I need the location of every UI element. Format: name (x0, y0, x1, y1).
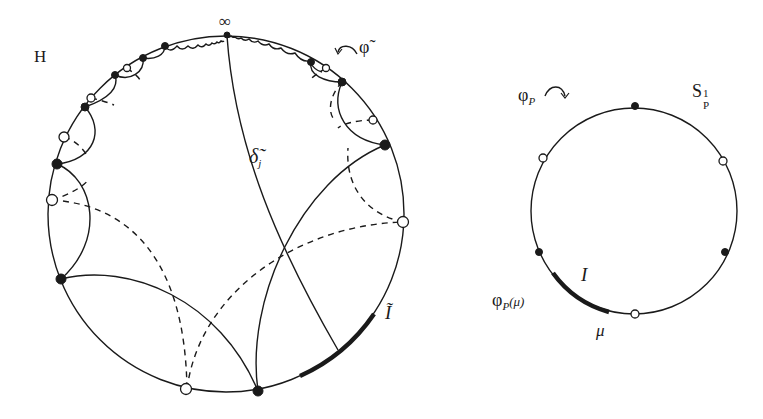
open-vertex (539, 154, 547, 162)
open-vertex (323, 65, 330, 72)
label-delta-j: δ̃j (249, 146, 261, 169)
phi-symbol: φ (518, 85, 528, 105)
filled-vertex (52, 159, 62, 169)
S-subscript: P (703, 100, 709, 111)
filled-vertex (536, 249, 543, 256)
filled-vertex (56, 274, 66, 284)
filled-vertex (140, 55, 147, 62)
filled-vertex (380, 140, 390, 150)
filled-vertex-infinity (224, 32, 230, 38)
S-superscript: 1 (703, 88, 709, 99)
scallops-left (165, 41, 224, 50)
filled-vertex (308, 59, 315, 66)
phi-symbol: φ (492, 290, 502, 310)
dashed-geodesic (52, 200, 187, 389)
phi-argument: (μ) (509, 294, 524, 309)
geodesic (61, 275, 258, 391)
label-phiP: φP (518, 86, 535, 107)
diagram-canvas (0, 0, 763, 419)
dashed-geodesic (52, 180, 88, 200)
geodesic (57, 164, 90, 279)
label-phi-tilde: φ̃ (359, 38, 369, 56)
open-vertex (181, 384, 192, 395)
label-phiP-mu: φP(μ) (492, 291, 524, 312)
label-I: I (581, 265, 587, 284)
label-H: H (34, 48, 46, 65)
label-I-tilde: Ĩ (385, 303, 391, 322)
geodesic (338, 82, 385, 145)
filled-vertex (81, 103, 89, 111)
delta-symbol: δ̃ (249, 145, 258, 167)
open-vertex (369, 116, 377, 124)
open-vertex (59, 132, 69, 142)
open-vertex (719, 157, 727, 165)
filled-vertex (338, 78, 346, 86)
dashed-geodesic (187, 222, 403, 389)
label-infinity: ∞ (219, 13, 231, 30)
filled-vertex (632, 103, 639, 110)
filled-vertex (112, 72, 119, 79)
scallops-right (227, 36, 322, 72)
open-vertex (87, 94, 95, 102)
S-symbol: S (692, 81, 702, 101)
label-S1P: S1P (692, 82, 712, 100)
open-vertex (124, 65, 131, 72)
interval-I-tilde (300, 314, 374, 376)
filled-vertex (162, 43, 169, 50)
label-mu: μ (596, 322, 605, 339)
geodesic (256, 145, 385, 391)
filled-vertex (253, 386, 263, 396)
open-vertex (47, 195, 58, 206)
phi-subscript: P (528, 95, 535, 107)
delta-subscript: j (258, 157, 261, 169)
filled-vertex (722, 249, 729, 256)
open-vertex (398, 217, 409, 228)
open-vertex-mu (631, 310, 639, 318)
